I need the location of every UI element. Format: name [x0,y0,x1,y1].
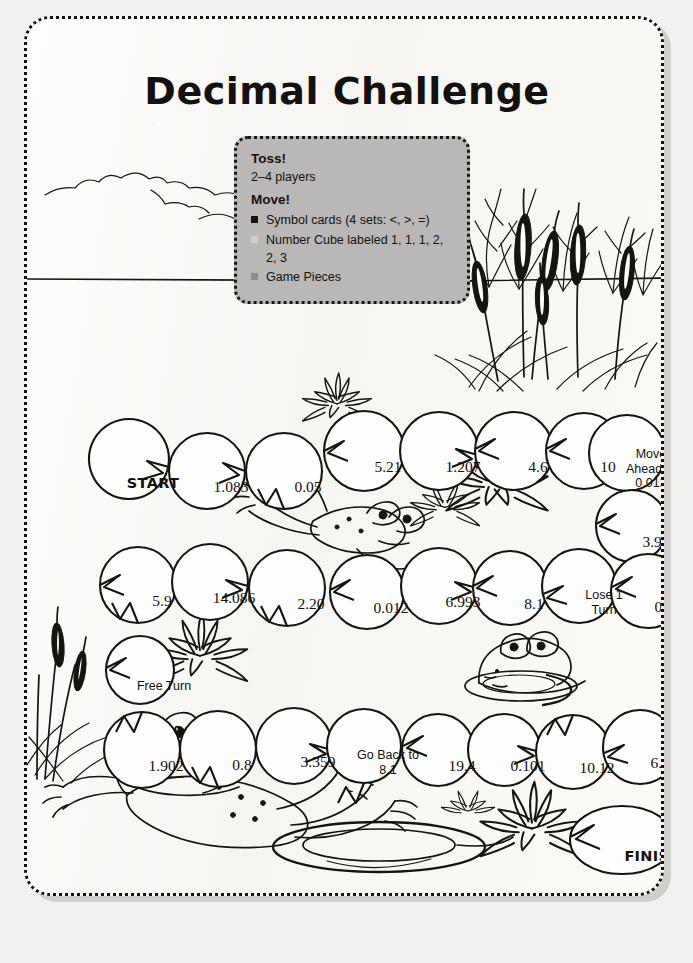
pad-220 [249,550,325,626]
space-label-10-12: 10.12 [580,759,615,777]
space-label-5-21: 5.21 [374,458,401,476]
space-label-0-05: 0.05 [294,478,321,496]
players-count: 2–4 players [251,169,453,187]
pad-46 [475,412,553,490]
space-label-8-1: 8.1 [524,595,543,613]
space-label-2-20: 2.20 [297,595,324,613]
space-label-19-4: 19.4 [448,757,475,775]
pad-08 [180,711,256,787]
space-label-finish: FINISH [624,848,664,864]
list-item: Symbol cards (4 sets: <, >, =) [251,212,453,230]
space-label-0-101: 0.101 [511,757,546,775]
pad-81 [473,551,547,625]
space-label-6-993: 6.993 [446,593,481,611]
pad-1902 [104,712,180,788]
space-label-start: START [127,475,179,491]
material-label: Symbol cards (4 sets: <, >, =) [266,213,430,227]
pad-0012 [330,555,404,629]
space-label-1-902: 1.902 [149,757,184,775]
material-label: Number Cube labeled 1, 1, 1, 2, 2, 3 [266,233,443,265]
list-item: Game Pieces [251,269,453,287]
square-bullet-icon [251,216,258,223]
space-label-5-9: 5.9 [152,592,171,610]
toss-heading: Toss! [251,149,453,168]
space-label-14-086: 14.086 [213,589,256,607]
worksheet-page: Decimal Challenge Toss! 2–4 players Move… [24,16,664,896]
space-label-lose-turn: Lose 1 Turn [573,588,635,617]
space-label-0-8: 0.8 [232,756,251,774]
space-label-move-ahead: Move Ahead to 0.012 [620,447,664,491]
space-label-10: 10 [600,458,616,476]
pad-005 [246,433,322,509]
space-label-6-67: 6.67 [650,754,664,772]
space-label-1-083: 1.083 [214,478,249,496]
pad-1012 [536,715,610,789]
space-label-0-003: 0.003 [655,598,664,616]
page-title: Decimal Challenge [27,69,664,113]
move-heading: Move! [251,190,453,209]
space-label-0-012: 0.012 [374,599,409,617]
pad-59 [100,547,176,623]
space-label-3-97: 3.97 [642,533,664,551]
pad-free-turn [106,636,174,704]
list-item: Number Cube labeled 1, 1, 1, 2, 2, 3 [251,232,453,268]
square-bullet-icon [251,273,258,280]
space-label-free-turn: Free Turn [133,679,195,694]
material-label: Game Pieces [266,270,341,284]
rules-box: Toss! 2–4 players Move! Symbol cards (4 … [234,136,470,304]
pad-521 [324,411,404,491]
space-label-4-6: 4.6 [528,458,547,476]
space-label-3-359: 3.359 [301,753,336,771]
space-label-1-207: 1.207 [446,458,481,476]
space-label-go-back: Go Back to 8.1 [357,748,419,777]
pad-397 [596,490,664,562]
square-bullet-icon [251,236,258,243]
materials-list: Symbol cards (4 sets: <, >, =) Number Cu… [251,212,453,287]
